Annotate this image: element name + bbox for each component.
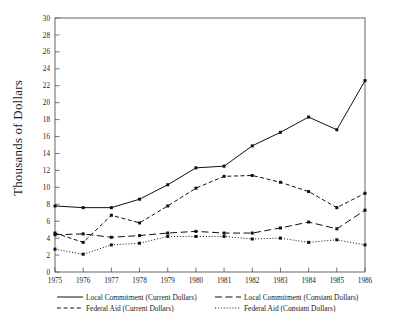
chart-canvas: 024681012141618202224262830 197519761977… bbox=[0, 0, 398, 322]
legend-label-3: Federal Aid (Constant Dollars) bbox=[244, 304, 336, 313]
x-tick-label: 1981 bbox=[217, 277, 232, 285]
y-tick-label: 0 bbox=[46, 269, 50, 277]
data-point-marker bbox=[223, 232, 226, 235]
data-point-marker bbox=[335, 206, 338, 209]
data-point-marker bbox=[223, 175, 226, 178]
legend-label-0: Local Commitment (Current Dollars) bbox=[86, 293, 197, 302]
x-tick-label: 1979 bbox=[161, 277, 176, 285]
data-point-marker bbox=[307, 116, 310, 119]
x-tick-label: 1982 bbox=[245, 277, 260, 285]
data-point-marker bbox=[82, 241, 85, 244]
series-line-3 bbox=[55, 236, 365, 254]
data-point-marker bbox=[166, 183, 169, 186]
y-tick-label: 14 bbox=[43, 150, 51, 158]
legend-label-2: Federal Aid (Current Dollars) bbox=[86, 304, 174, 313]
data-point-marker bbox=[251, 232, 254, 235]
data-point-marker bbox=[307, 190, 310, 193]
data-point-marker bbox=[138, 234, 141, 237]
y-tick-label: 18 bbox=[43, 116, 51, 124]
data-point-marker bbox=[223, 235, 226, 238]
data-series-group bbox=[54, 79, 367, 256]
line-chart-figure: Thousands of Dollars 0246810121416182022… bbox=[0, 0, 398, 322]
data-point-marker bbox=[307, 221, 310, 224]
y-tick-label: 22 bbox=[43, 82, 51, 90]
x-tick-label: 1978 bbox=[132, 277, 147, 285]
y-tick-label: 8 bbox=[46, 201, 50, 209]
y-tick-label: 26 bbox=[43, 48, 51, 56]
y-tick-label: 24 bbox=[43, 65, 51, 73]
data-point-marker bbox=[110, 206, 113, 209]
data-point-marker bbox=[82, 232, 85, 235]
data-point-marker bbox=[194, 187, 197, 190]
x-tick-label: 1984 bbox=[301, 277, 316, 285]
chart-legend: Local Commitment (Current Dollars)Local … bbox=[57, 293, 359, 313]
series-line-1 bbox=[55, 210, 365, 237]
y-tick-label: 2 bbox=[46, 252, 50, 260]
data-point-marker bbox=[138, 221, 141, 224]
x-tick-label: 1975 bbox=[48, 277, 63, 285]
data-point-marker bbox=[279, 237, 282, 240]
y-tick-label: 28 bbox=[43, 32, 51, 40]
data-point-marker bbox=[364, 209, 367, 212]
y-tick-label: 6 bbox=[46, 218, 50, 226]
data-point-marker bbox=[279, 181, 282, 184]
y-tick-label: 10 bbox=[43, 184, 51, 192]
data-point-marker bbox=[364, 79, 367, 82]
data-point-marker bbox=[110, 243, 113, 246]
data-point-marker bbox=[194, 166, 197, 169]
data-point-marker bbox=[335, 128, 338, 131]
data-point-marker bbox=[251, 174, 254, 177]
data-point-marker bbox=[194, 230, 197, 233]
x-tick-label: 1976 bbox=[76, 277, 91, 285]
data-point-marker bbox=[279, 131, 282, 134]
data-point-marker bbox=[194, 235, 197, 238]
data-point-marker bbox=[364, 243, 367, 246]
y-tick-label: 4 bbox=[46, 235, 50, 243]
series-line-0 bbox=[55, 81, 365, 208]
data-point-marker bbox=[82, 253, 85, 256]
x-tick-label: 1983 bbox=[273, 277, 288, 285]
data-point-marker bbox=[166, 204, 169, 207]
data-point-marker bbox=[54, 248, 57, 251]
x-axis-ticks: 1975197619771978197919801981198219831984… bbox=[48, 268, 373, 286]
x-tick-label: 1986 bbox=[358, 277, 373, 285]
x-tick-label: 1980 bbox=[189, 277, 204, 285]
y-axis-ticks: 024681012141618202224262830 bbox=[43, 15, 60, 277]
data-point-marker bbox=[335, 238, 338, 241]
data-point-marker bbox=[54, 204, 57, 207]
y-tick-label: 16 bbox=[43, 133, 51, 141]
y-axis-label: Thousands of Dollars bbox=[10, 58, 26, 218]
data-point-marker bbox=[223, 165, 226, 168]
data-point-marker bbox=[279, 226, 282, 229]
data-point-marker bbox=[335, 227, 338, 230]
y-tick-label: 20 bbox=[43, 99, 51, 107]
data-point-marker bbox=[251, 237, 254, 240]
data-point-marker bbox=[138, 242, 141, 245]
data-point-marker bbox=[166, 235, 169, 238]
data-point-marker bbox=[251, 144, 254, 147]
x-tick-label: 1985 bbox=[330, 277, 345, 285]
x-tick-label: 1977 bbox=[104, 277, 119, 285]
data-point-marker bbox=[166, 232, 169, 235]
data-point-marker bbox=[54, 232, 57, 235]
data-point-marker bbox=[307, 241, 310, 244]
plot-frame bbox=[55, 18, 365, 272]
series-line-2 bbox=[55, 175, 365, 242]
data-point-marker bbox=[138, 198, 141, 201]
data-point-marker bbox=[364, 192, 367, 195]
y-tick-label: 12 bbox=[43, 167, 51, 175]
y-tick-label: 30 bbox=[43, 15, 51, 23]
data-point-marker bbox=[82, 206, 85, 209]
data-point-marker bbox=[110, 236, 113, 239]
data-point-marker bbox=[110, 214, 113, 217]
legend-label-1: Local Commitment (Constant Dollars) bbox=[244, 293, 359, 302]
